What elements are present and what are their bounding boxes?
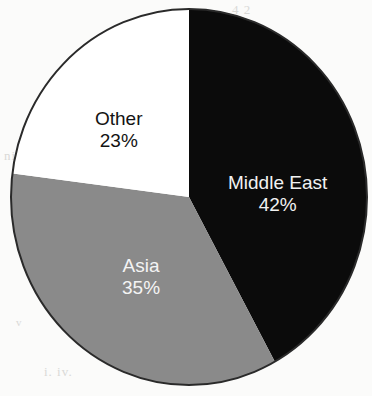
pie-label-asia-name: Asia — [122, 255, 160, 277]
pie-chart-figure: 4 2 nic n i. iv. v Middle East 42% Asia … — [0, 0, 372, 396]
pie-label-asia-value: 35% — [122, 277, 160, 299]
pie-label-middle-east-value: 42% — [228, 194, 327, 216]
pie-label-asia: Asia 35% — [122, 255, 160, 300]
pie-label-other: Other 23% — [95, 108, 143, 153]
pie-label-middle-east: Middle East 42% — [228, 172, 327, 217]
pie-label-other-name: Other — [95, 108, 143, 130]
pie-label-other-value: 23% — [95, 130, 143, 152]
pie-label-middle-east-name: Middle East — [228, 172, 327, 194]
